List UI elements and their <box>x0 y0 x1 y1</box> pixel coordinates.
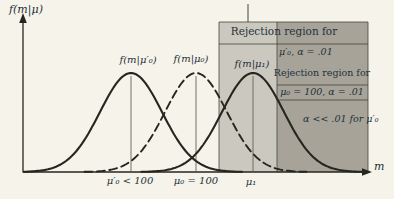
dark-region-title: Rejection region for <box>274 68 370 78</box>
curve-label-mu0: f(m|μ₀) <box>174 53 209 64</box>
x-tick-mu1: μ₁ <box>246 176 257 187</box>
curve-mu0prime <box>24 73 242 172</box>
y-axis-label: f(m|μ) <box>9 4 43 16</box>
x-tick-mu0: μ₀ = 100 <box>174 175 218 186</box>
band-title: Rejection region for <box>231 26 337 38</box>
x-tick-mu0prime: μ′₀ < 100 <box>107 175 154 186</box>
dark-region-subject: μ₀ = 100, α = .01 <box>280 87 364 97</box>
alpha-note: α << .01 for μ′₀ <box>303 114 378 124</box>
band-subject: μ′₀, α = .01 <box>279 47 333 57</box>
curve-label-mu1: f(m|μ₁) <box>235 58 270 69</box>
rejection-region-light <box>219 22 277 172</box>
curve-label-mu0prime: f(m|μ′₀) <box>119 54 156 65</box>
figure-canvas: f(m|μ) m f(m|μ′₀) f(m|μ₀) f(m|μ₁) Reject… <box>0 0 394 199</box>
x-axis-label: m <box>374 161 384 173</box>
